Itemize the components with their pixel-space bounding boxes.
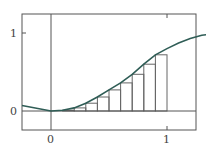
x-tick-label-0: 0 [47, 133, 54, 146]
plot-frame [22, 14, 196, 130]
x-tick-label-1: 1 [163, 133, 170, 146]
y-tick-label-1: 1 [10, 27, 17, 40]
function-curve [22, 33, 206, 111]
riemann-rectangle [97, 97, 109, 111]
riemann-rectangle [86, 103, 98, 111]
riemann-rectangle [144, 64, 156, 111]
y-tick-label-0: 0 [10, 105, 17, 118]
riemann-rectangle [121, 83, 133, 111]
riemann-rectangle [132, 74, 144, 111]
riemann-sum-chart: 1 0 0 1 [0, 0, 206, 150]
riemann-rectangle [109, 90, 121, 111]
riemann-rectangle [155, 55, 167, 111]
riemann-rectangles [63, 55, 167, 111]
